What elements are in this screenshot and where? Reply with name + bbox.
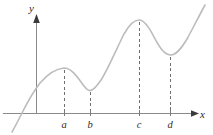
- function-curve: [12, 5, 205, 132]
- graph-canvas: y x a b c d: [0, 0, 213, 135]
- x-tick-label-a: a: [61, 119, 66, 130]
- x-tick-label-d: d: [167, 119, 173, 130]
- y-axis-label: y: [28, 2, 34, 14]
- y-axis-arrowhead: [33, 14, 40, 23]
- function-graph-figure: y x a b c d: [0, 0, 213, 135]
- x-tick-label-b: b: [87, 119, 92, 130]
- x-axis-label: x: [199, 108, 205, 120]
- x-axis-arrowhead: [191, 110, 199, 117]
- x-tick-label-c: c: [137, 119, 142, 130]
